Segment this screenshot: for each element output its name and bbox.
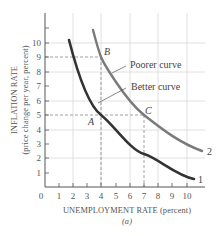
x-tick-7: 7 xyxy=(142,191,147,201)
x-tick-5: 5 xyxy=(114,191,119,201)
y-tick-5: 5 xyxy=(37,110,42,120)
y-tick-1: 1 xyxy=(37,168,42,178)
y-tick-7: 7 xyxy=(37,81,42,91)
y-tick-10: 10 xyxy=(32,38,42,48)
curve-2-end-label: 2 xyxy=(207,146,212,157)
y-tick-6: 6 xyxy=(37,96,42,106)
figure-caption: (a) xyxy=(122,217,132,226)
y-ticks xyxy=(45,28,49,173)
x-tick-2: 2 xyxy=(71,191,76,201)
curve-1-end-label: 1 xyxy=(198,174,203,185)
x-tick-10: 10 xyxy=(183,191,193,201)
y-tick-3: 3 xyxy=(37,139,42,149)
phillips-curve-chart: 1 2 3 4 5 6 7 8 9 10 0 1 2 3 4 5 6 7 8 9… xyxy=(0,0,224,236)
x-tick-8: 8 xyxy=(156,191,161,201)
y-tick-8: 8 xyxy=(37,67,42,77)
x-ticks xyxy=(59,183,187,187)
y-tick-labels: 1 2 3 4 5 6 7 8 9 10 xyxy=(32,38,42,178)
x-tick-3: 3 xyxy=(85,191,90,201)
x-tick-0: 0 xyxy=(39,191,44,201)
x-tick-4: 4 xyxy=(99,191,104,201)
point-a-label: A xyxy=(87,116,95,127)
x-axis-title: UNEMPLOYMENT RATE (percent) xyxy=(63,206,191,215)
x-tick-labels: 0 1 2 3 4 5 6 7 8 9 10 xyxy=(39,191,192,201)
x-tick-6: 6 xyxy=(128,191,133,201)
y-axis-title-line2: (price change per year, percent) xyxy=(21,45,30,154)
poorer-curve-label: Poorer curve xyxy=(130,59,182,70)
y-tick-2: 2 xyxy=(37,153,42,163)
y-tick-9: 9 xyxy=(37,52,42,62)
x-tick-9: 9 xyxy=(170,191,175,201)
y-tick-4: 4 xyxy=(37,125,42,135)
y-axis-title-line1: INFLATION RATE xyxy=(10,66,19,134)
point-c-label: C xyxy=(145,105,152,116)
better-curve-label: Better curve xyxy=(131,81,181,92)
x-tick-1: 1 xyxy=(57,191,62,201)
reference-dashes xyxy=(45,57,144,187)
point-b-label: B xyxy=(104,46,110,57)
